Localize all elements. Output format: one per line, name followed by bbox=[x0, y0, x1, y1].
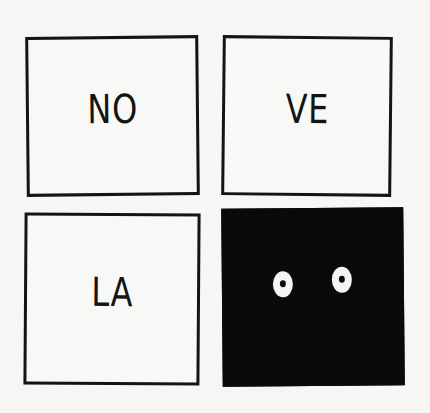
pupil bbox=[339, 276, 345, 283]
panel-no: NO bbox=[25, 35, 200, 197]
panel-la: LA bbox=[23, 212, 200, 385]
panel-ve: VE bbox=[221, 35, 393, 197]
eye-icon bbox=[273, 271, 293, 297]
eye-icon bbox=[332, 267, 352, 293]
panel-word: LA bbox=[91, 269, 133, 315]
panel-word: VE bbox=[285, 86, 329, 132]
pupil bbox=[280, 280, 286, 287]
panel-word: NO bbox=[87, 86, 138, 133]
panel-dark-eyes bbox=[221, 207, 405, 387]
